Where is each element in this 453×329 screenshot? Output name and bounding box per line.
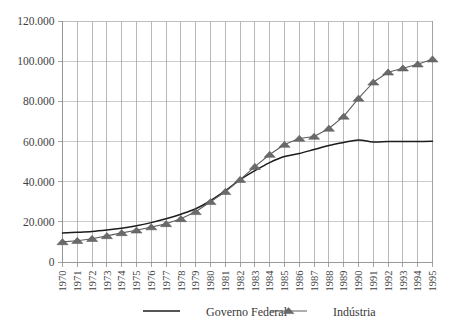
x-axis-tick-label: 1981 xyxy=(220,271,231,292)
x-axis-tick-label: 1989 xyxy=(338,271,349,292)
y-axis-tick-label: 120.000 xyxy=(17,15,55,27)
y-axis-tick-label: 60.000 xyxy=(23,136,55,148)
x-axis-tick-label: 1974 xyxy=(116,270,127,292)
x-axis-tick-label: 1984 xyxy=(264,270,275,292)
x-axis-tick-label: 1982 xyxy=(235,271,246,292)
x-axis-tick-label: 1987 xyxy=(309,271,320,292)
chart-container: 020.00040.00060.00080.000100.000120.000 … xyxy=(0,0,453,329)
x-axis-tick-label: 1986 xyxy=(294,271,305,292)
x-axis-tick-label: 1985 xyxy=(279,271,290,292)
y-axis-tick-label: 20.000 xyxy=(23,216,55,228)
x-axis-tick-label: 1980 xyxy=(205,271,216,292)
x-axis-tick-label: 1993 xyxy=(398,271,409,292)
x-axis-tick-label: 1994 xyxy=(412,270,423,292)
x-axis-tick-label: 1972 xyxy=(87,271,98,292)
y-axis-tick-label: 80.000 xyxy=(23,95,55,107)
x-axis-tick-label: 1976 xyxy=(146,271,157,292)
x-axis-tick-label: 1977 xyxy=(161,271,172,292)
y-axis-tick-label: 100.000 xyxy=(17,55,55,67)
x-axis-tick-label: 1983 xyxy=(250,271,261,292)
x-axis-tick-label: 1992 xyxy=(383,271,394,292)
x-axis-tick-label: 1979 xyxy=(190,271,201,292)
x-axis-tick-label: 1995 xyxy=(427,271,438,292)
line-chart-figure: 020.00040.00060.00080.000100.000120.000 … xyxy=(0,0,453,329)
y-axis-tick-label: 0 xyxy=(49,256,55,268)
x-axis-tick-label: 1991 xyxy=(368,271,379,292)
x-axis-tick-label: 1971 xyxy=(72,271,83,292)
y-axis-tick-label: 40.000 xyxy=(23,176,55,188)
x-axis-tick-label: 1970 xyxy=(57,271,68,292)
x-axis-tick-label: 1990 xyxy=(353,271,364,292)
x-axis-tick-label: 1975 xyxy=(131,271,142,292)
x-axis-tick-label: 1973 xyxy=(102,271,113,292)
legend-label: Indústria xyxy=(333,305,376,319)
x-axis-tick-label: 1988 xyxy=(324,271,335,292)
x-axis-tick-label: 1978 xyxy=(176,271,187,292)
